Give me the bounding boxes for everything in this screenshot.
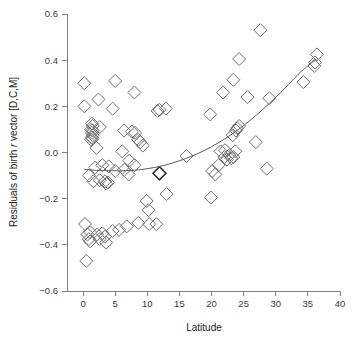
- y-axis-title-lead: Residuals of birth: [8, 147, 19, 227]
- data-point: [78, 77, 91, 90]
- x-axis-title: Latitude: [186, 322, 222, 333]
- data-point: [204, 108, 217, 121]
- y-axis-ticks: −0.6−0.4−0.20.00.20.40.6: [39, 8, 67, 296]
- plot-axes: [67, 14, 340, 291]
- y-tick-label: 0.0: [45, 147, 58, 158]
- x-tick-label: 20: [206, 298, 217, 309]
- y-tick-label: −0.6: [39, 285, 58, 296]
- x-tick-label: 35: [303, 298, 314, 309]
- y-tick-label: 0.4: [45, 55, 58, 66]
- data-point: [227, 73, 240, 86]
- data-point: [132, 216, 145, 229]
- data-point: [78, 218, 91, 231]
- data-point: [160, 188, 173, 201]
- x-tick-label: 10: [142, 298, 153, 309]
- y-axis-title-trail: vector [D,C,M]: [8, 77, 19, 144]
- x-tick-label: 5: [113, 298, 118, 309]
- data-point: [96, 159, 109, 172]
- data-point-highlighted: [153, 167, 166, 180]
- x-tick-label: 30: [270, 298, 281, 309]
- y-tick-label: −0.4: [39, 239, 58, 250]
- data-point: [297, 76, 310, 89]
- data-point: [241, 91, 254, 104]
- data-point: [84, 226, 97, 239]
- x-tick-label: 15: [174, 298, 185, 309]
- data-point: [254, 24, 267, 37]
- data-point: [78, 100, 91, 113]
- x-tick-label: 40: [335, 298, 346, 309]
- scatter-plot-figure: −0.6−0.4−0.20.00.20.40.6 051015202530354…: [0, 0, 358, 340]
- y-tick-label: −0.2: [39, 193, 58, 204]
- data-point: [128, 86, 141, 99]
- x-tick-label: 0: [80, 298, 85, 309]
- data-point: [106, 102, 119, 115]
- x-axis-ticks: 0510152025303540: [80, 291, 345, 309]
- chart-canvas: −0.6−0.4−0.20.00.20.40.6 051015202530354…: [0, 0, 358, 340]
- data-point: [217, 86, 230, 99]
- y-tick-label: 0.6: [45, 8, 58, 19]
- data-point: [249, 136, 262, 149]
- data-point: [80, 254, 93, 267]
- data-point: [233, 53, 246, 66]
- data-point: [260, 162, 273, 175]
- data-point: [92, 93, 105, 106]
- x-tick-label: 25: [238, 298, 249, 309]
- data-point: [106, 224, 119, 237]
- y-tick-label: 0.2: [45, 101, 58, 112]
- data-point-layer: [78, 24, 324, 268]
- data-point: [204, 191, 217, 204]
- y-axis-title: Residuals of birth r vector [D,C,M]: [8, 77, 19, 227]
- data-point: [109, 74, 122, 87]
- data-point: [89, 161, 102, 174]
- data-point: [84, 235, 97, 248]
